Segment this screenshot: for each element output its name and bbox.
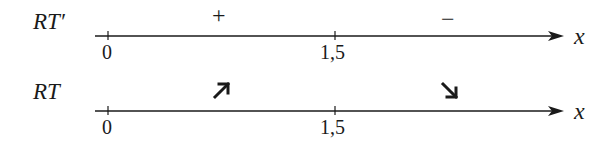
sign-negative: − [441, 7, 455, 31]
sign-positive: + [212, 3, 226, 27]
increasing-arrow-icon [215, 84, 228, 97]
axis-variable-x: x [574, 24, 585, 48]
tick-label-0: 0 [102, 42, 112, 62]
axis-variable-x: x [574, 99, 585, 123]
axes-drawing [0, 0, 616, 153]
row2-axis [95, 106, 564, 116]
row-label-rt: RT [33, 80, 60, 103]
tick-label-1-5: 1,5 [320, 117, 345, 137]
tick-label-0: 0 [102, 117, 112, 137]
row1-axis [95, 31, 564, 41]
decreasing-arrow-icon [443, 84, 456, 97]
row-label-rt-prime: RT′ [33, 10, 65, 33]
tick-label-1-5: 1,5 [320, 42, 345, 62]
